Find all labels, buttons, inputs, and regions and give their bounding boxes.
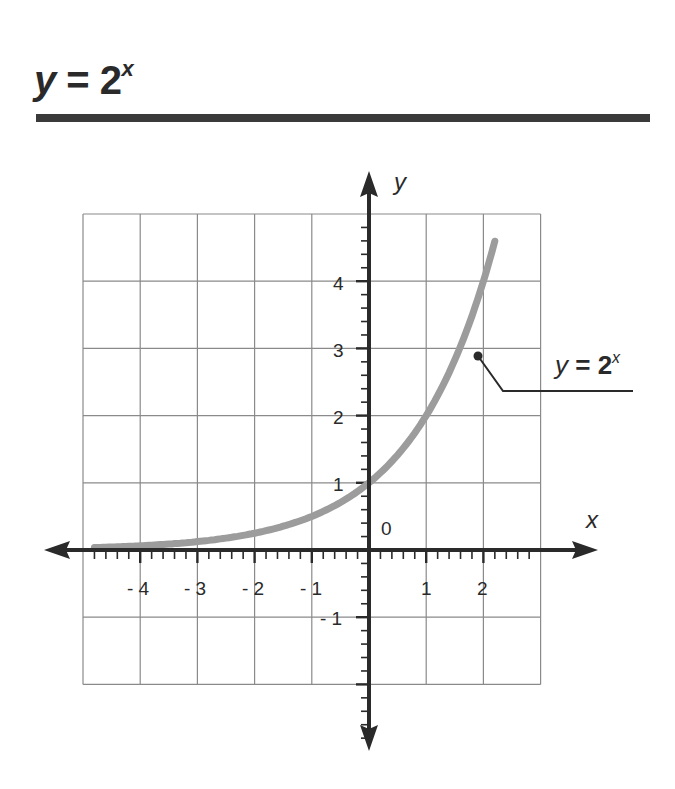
- origin-label: 0: [381, 518, 392, 539]
- callout-label: y = 2x: [553, 349, 621, 380]
- y-tick-label: 3: [333, 340, 344, 361]
- callout-equals-base: = 2: [568, 350, 612, 380]
- y-tick-labels: 4 3 2 1 - 1: [320, 273, 344, 629]
- grid: [83, 214, 541, 684]
- axes: [44, 171, 598, 751]
- x-tick-label: - 1: [300, 578, 322, 599]
- callout-exponent: x: [611, 349, 621, 366]
- curve-2-to-x: [94, 241, 494, 547]
- y-tick-label: 1: [333, 474, 344, 495]
- x-tick-label: - 4: [127, 578, 150, 599]
- exponential-chart: y x 0 - 4 - 3 - 2 - 1 1 2 4 3 2 1 - 1 y …: [0, 0, 675, 789]
- y-tick-label: 4: [333, 273, 344, 294]
- x-tick-label: 2: [477, 578, 488, 599]
- y-axis-label: y: [392, 168, 408, 195]
- x-tick-label: - 3: [184, 578, 206, 599]
- x-tick-labels: - 4 - 3 - 2 - 1 1 2: [127, 578, 488, 599]
- x-tick-label: - 2: [242, 578, 264, 599]
- y-tick-label: 2: [333, 407, 344, 428]
- x-axis-label: x: [585, 506, 599, 533]
- y-tick-label: - 1: [320, 608, 342, 629]
- x-tick-label: 1: [421, 578, 432, 599]
- curve-callout: y = 2x: [474, 349, 634, 391]
